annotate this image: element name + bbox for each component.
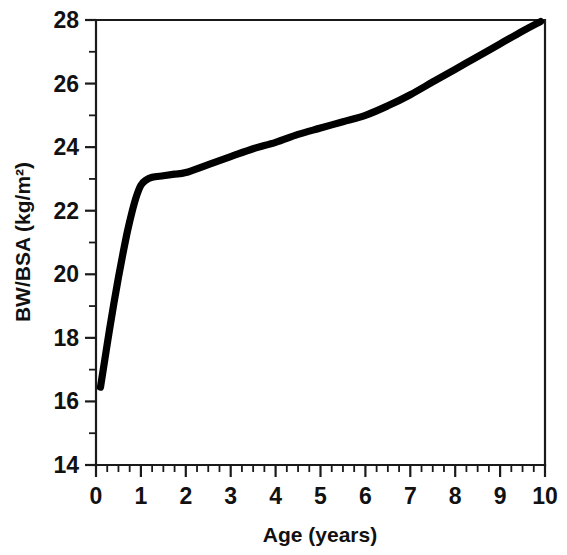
x-tick-label-5: 5 [314, 483, 327, 509]
data-curve-bw-bsa [100, 22, 540, 388]
y-tick-label-16: 16 [53, 388, 79, 414]
y-axis-title: BW/BSA (kg/m²) [11, 162, 34, 322]
y-tick-label-28: 28 [53, 7, 79, 33]
line-chart: 1416182022242628 012345678910 Age (years… [0, 0, 567, 555]
y-tick-label-26: 26 [53, 71, 79, 97]
x-tick-label-1: 1 [135, 483, 148, 509]
x-tick-label-0: 0 [90, 483, 103, 509]
y-tick-label-20: 20 [53, 261, 79, 287]
x-axis-title: Age (years) [263, 523, 377, 546]
y-axis-tick-labels: 1416182022242628 [53, 7, 79, 478]
y-tick-label-24: 24 [53, 134, 79, 160]
axis-spines [96, 20, 545, 465]
x-tick-label-8: 8 [449, 483, 462, 509]
y-tick-label-14: 14 [53, 452, 79, 478]
data-series-group [100, 22, 540, 388]
y-tick-label-22: 22 [53, 198, 79, 224]
x-tick-label-10: 10 [532, 483, 558, 509]
axis-frame [96, 20, 545, 465]
x-axis-tick-labels: 012345678910 [90, 483, 558, 509]
x-tick-label-4: 4 [269, 483, 282, 509]
x-tick-label-3: 3 [224, 483, 237, 509]
x-tick-label-9: 9 [494, 483, 507, 509]
x-tick-label-7: 7 [404, 483, 417, 509]
x-tick-label-2: 2 [179, 483, 192, 509]
y-tick-label-18: 18 [53, 325, 79, 351]
x-tick-label-6: 6 [359, 483, 372, 509]
chart-figure: 1416182022242628 012345678910 Age (years… [0, 0, 567, 555]
axis-frame-top-right [96, 20, 545, 465]
